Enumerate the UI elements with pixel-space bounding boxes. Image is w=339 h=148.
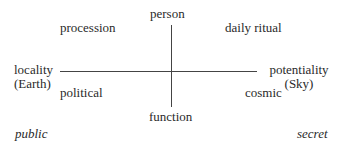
axis-label-left-line2: (Earth) bbox=[14, 77, 53, 91]
horizontal-axis bbox=[60, 71, 257, 72]
quadrant-label-top-right: daily ritual bbox=[225, 21, 282, 35]
axis-label-left-line1: locality bbox=[14, 63, 53, 77]
vertical-axis bbox=[171, 25, 172, 107]
axis-label-top: person bbox=[150, 7, 185, 21]
quadrant-label-bottom-left: political bbox=[60, 86, 103, 100]
quadrant-label-bottom-right: cosmic bbox=[245, 86, 282, 100]
axis-label-right-line1: potentiality bbox=[267, 63, 331, 77]
corner-label-secret: secret bbox=[297, 127, 328, 141]
axis-label-left: locality (Earth) bbox=[14, 63, 53, 91]
axis-label-bottom: function bbox=[149, 110, 192, 124]
quadrant-label-top-left: procession bbox=[60, 21, 116, 35]
corner-label-public: public bbox=[15, 127, 48, 141]
